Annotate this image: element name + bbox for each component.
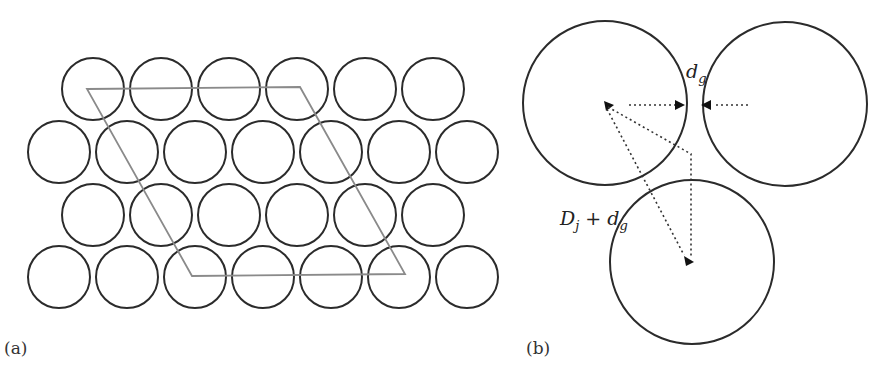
fiber-circle — [198, 184, 260, 246]
fiber-circle — [368, 246, 430, 308]
panel-b-label: (b) — [526, 338, 550, 358]
fiber-circle — [96, 246, 158, 308]
fiber-circle — [300, 121, 362, 183]
fiber-circle — [28, 121, 90, 183]
panel-a-hexagonal-packing — [28, 58, 498, 308]
fiber-circle — [368, 121, 430, 183]
fiber-circle — [300, 246, 362, 308]
fiber-circle — [436, 246, 498, 308]
fiber-circle — [164, 246, 226, 308]
fiber-circle — [402, 184, 464, 246]
fiber-circle — [62, 184, 124, 246]
figure-canvas: (a) dg Dj + dg (b) — [0, 0, 887, 384]
gap-label: dg — [686, 60, 707, 86]
panel-b-fiber-spacing: dg Dj + dg — [523, 21, 867, 344]
bottom-center-arrowhead-icon — [684, 256, 694, 266]
fiber-circle — [266, 184, 328, 246]
fiber-circle — [436, 121, 498, 183]
fiber-circle — [164, 121, 226, 183]
fiber-circle — [28, 246, 90, 308]
fiber-circle — [232, 121, 294, 183]
panel-a-label: (a) — [4, 338, 27, 358]
fiber-circle — [232, 246, 294, 308]
fiber-circle — [402, 58, 464, 120]
fiber-circle-right — [703, 22, 867, 186]
arrowhead-icon — [675, 100, 685, 110]
fiber-circle — [266, 58, 328, 120]
fiber-circle — [96, 121, 158, 183]
fiber-circle — [198, 58, 260, 120]
fiber-circle — [130, 184, 192, 246]
fiber-circle — [334, 58, 396, 120]
fiber-circle — [334, 184, 396, 246]
